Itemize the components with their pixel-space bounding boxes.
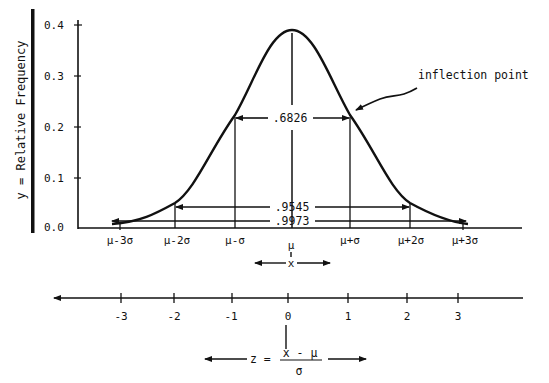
left-border-bar <box>31 9 35 233</box>
z-formula-denominator: σ <box>296 364 303 378</box>
z-tick-neg3: -3 <box>114 310 127 323</box>
label-mu-plus-2sigma: μ+2σ <box>398 234 425 247</box>
y-tick-0.0: 0.0 <box>44 221 64 234</box>
label-mu-plus-3sigma: μ+3σ <box>452 234 479 247</box>
z-tick-2: 2 <box>404 310 411 323</box>
label-mu: μ <box>288 239 295 252</box>
label-mu-plus-sigma: μ+σ <box>340 234 360 247</box>
area-9973-label: .9973 <box>275 214 310 228</box>
y-tick-0.3: 0.3 <box>44 70 64 83</box>
z-tick-neg2: -2 <box>167 310 180 323</box>
y-tick-0.1: 0.1 <box>44 172 64 185</box>
z-tick-1: 1 <box>345 310 352 323</box>
z-tick-neg1: -1 <box>224 310 237 323</box>
y-tick-0.2: 0.2 <box>44 121 64 134</box>
inflection-arrow <box>356 88 417 110</box>
normal-curve <box>112 30 468 224</box>
z-tick-0: 0 <box>285 310 292 323</box>
label-mu-minus-sigma: μ-σ <box>225 234 245 247</box>
z-formula-numerator: x - μ <box>283 346 318 360</box>
y-tick-0.4: 0.4 <box>44 19 64 32</box>
area-6826-label: .6826 <box>273 111 308 125</box>
area-9545-label: .9545 <box>275 200 310 214</box>
z-formula-lhs: z = <box>250 352 271 366</box>
normal-distribution-figure: y = Relative Frequency 0.4 0.3 0.2 0.1 0… <box>0 0 549 383</box>
y-axis-label: y = Relative Frequency <box>14 41 28 200</box>
z-tick-3: 3 <box>455 310 462 323</box>
x-variable-label: x <box>288 257 295 270</box>
inflection-point-label: inflection point <box>418 68 529 82</box>
label-mu-minus-2sigma: μ-2σ <box>164 234 191 247</box>
label-mu-minus-3sigma: μ-3σ <box>107 234 134 247</box>
